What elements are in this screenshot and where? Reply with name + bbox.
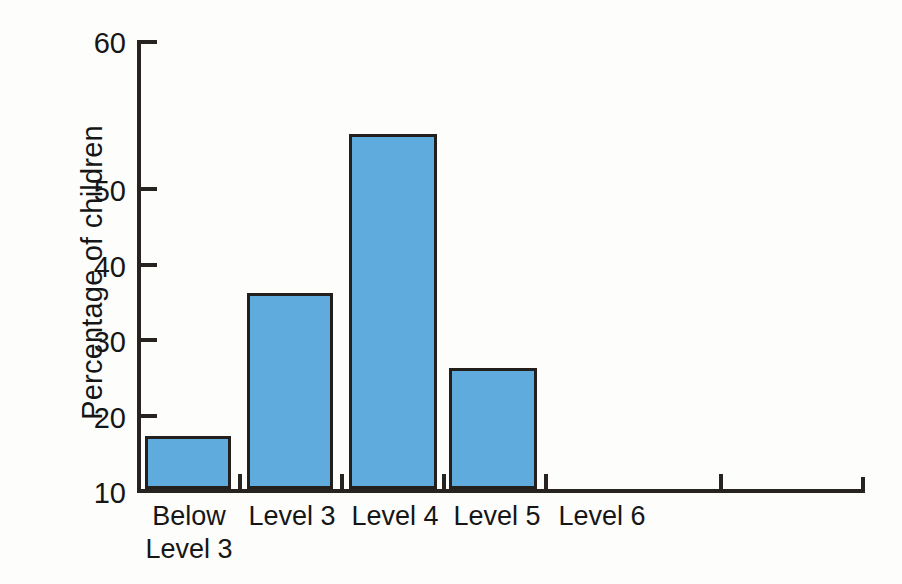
bar-level-4 bbox=[349, 134, 437, 489]
y-tick-mark-10 bbox=[141, 489, 157, 493]
x-tick-label-level-5: Level 5 bbox=[441, 500, 553, 533]
y-tick-label-40: 40 bbox=[66, 250, 126, 283]
x-tick-label-level-3-line-1: Level 3 bbox=[236, 500, 348, 533]
x-tick-label-below-level-3: Below Level 3 bbox=[133, 500, 245, 566]
bar-level-5 bbox=[449, 368, 537, 489]
y-tick-mark-40 bbox=[141, 263, 157, 267]
y-axis-line bbox=[137, 40, 141, 493]
x-tick-mark-5 bbox=[719, 474, 723, 489]
x-tick-label-level-6: Level 6 bbox=[546, 500, 658, 533]
x-tick-mark-3 bbox=[442, 474, 446, 489]
x-axis-end-tick bbox=[861, 477, 865, 493]
x-tick-label-below-level-3-line-2: Level 3 bbox=[133, 533, 245, 566]
y-tick-mark-60 bbox=[141, 40, 157, 44]
plot-area bbox=[137, 40, 865, 493]
x-axis-line bbox=[137, 489, 865, 493]
y-tick-label-10: 10 bbox=[66, 477, 126, 510]
bar-below-level-3 bbox=[145, 436, 231, 489]
x-axis-tick-labels: Below Level 3 Level 3 Level 4 Level 5 Le… bbox=[137, 500, 865, 580]
y-tick-label-60: 60 bbox=[66, 27, 126, 60]
x-tick-mark-4 bbox=[544, 474, 548, 489]
x-tick-label-level-4: Level 4 bbox=[339, 500, 451, 533]
x-tick-mark-0 bbox=[137, 474, 141, 489]
x-tick-label-level-4-line-1: Level 4 bbox=[339, 500, 451, 533]
y-axis-tick-labels: 10 20 30 40 50 60 bbox=[58, 40, 126, 493]
y-tick-label-20: 20 bbox=[66, 401, 126, 434]
bar-chart: Percentage of children 10 20 30 40 50 60 bbox=[0, 0, 902, 584]
y-tick-label-50: 50 bbox=[66, 175, 126, 208]
x-tick-mark-2 bbox=[340, 474, 344, 489]
y-tick-mark-20 bbox=[141, 414, 157, 418]
x-tick-label-level-6-line-1: Level 6 bbox=[546, 500, 658, 533]
bar-level-3 bbox=[247, 293, 333, 489]
x-tick-label-level-3: Level 3 bbox=[236, 500, 348, 533]
y-tick-mark-50 bbox=[141, 187, 157, 191]
x-tick-mark-1 bbox=[238, 474, 242, 489]
y-tick-label-30: 30 bbox=[66, 326, 126, 359]
y-tick-mark-30 bbox=[141, 338, 157, 342]
x-tick-label-below-level-3-line-1: Below bbox=[133, 500, 245, 533]
x-tick-label-level-5-line-1: Level 5 bbox=[441, 500, 553, 533]
